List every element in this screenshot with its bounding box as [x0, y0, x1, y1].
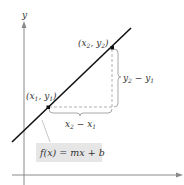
rise-label: y2 − y1 — [122, 73, 154, 84]
function-label: f(x) = mx + b — [39, 147, 105, 158]
x-axis-arrow-icon — [176, 173, 183, 178]
leader-line — [42, 120, 50, 142]
diagram-canvas: y (x1, y1) (x2, y2) x2 − x1 y2 − y1 f(x)… — [0, 0, 184, 185]
y-axis-arrow-icon — [22, 21, 27, 28]
point-1-label: (x1, y1) — [26, 91, 57, 102]
y-axis — [22, 21, 27, 185]
y-axis-label: y — [21, 10, 28, 20]
run-label: x2 − x1 — [65, 119, 96, 130]
x-axis — [12, 173, 183, 178]
point-1-marker — [47, 106, 51, 110]
point-2-label: (x2, y2) — [78, 38, 109, 49]
run-brace-icon — [49, 109, 112, 116]
point-2-marker — [111, 46, 115, 50]
rise-brace-icon — [114, 49, 121, 107]
